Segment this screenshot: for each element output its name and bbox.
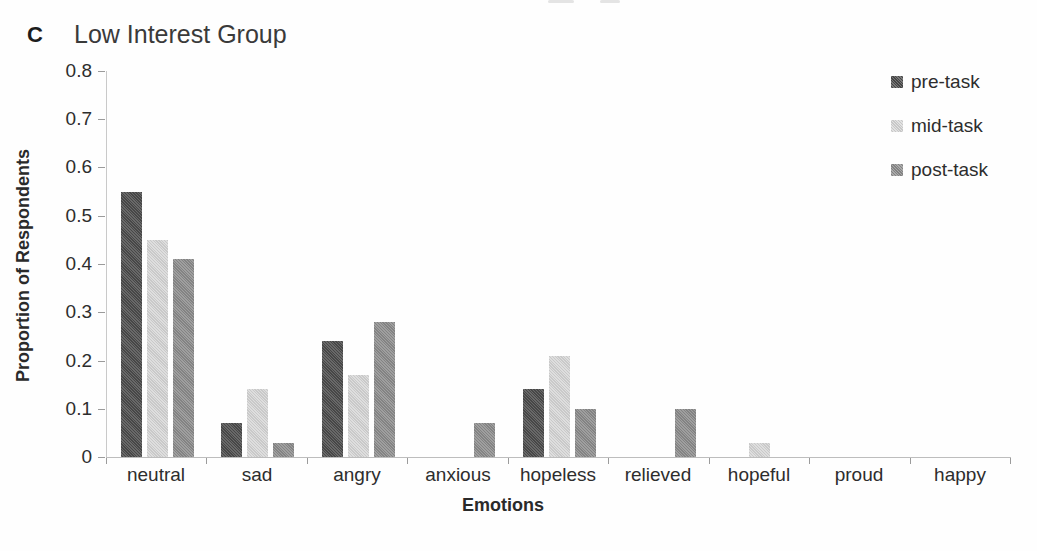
legend-label: mid-task (911, 115, 983, 137)
figure-panel-c: C Low Interest Group Proportion of Respo… (0, 0, 1037, 551)
x-tick-label: anxious (403, 464, 513, 486)
bar-pre-task-angry (322, 341, 343, 457)
scan-artifact (600, 0, 620, 3)
plot-area (106, 71, 1011, 458)
bar-post-task-neutral (173, 259, 194, 457)
x-tick-label: neutral (101, 464, 211, 486)
y-tick-label: 0.1 (32, 399, 92, 419)
scan-artifact (548, 0, 574, 3)
bar-mid-task-sad (247, 389, 268, 457)
bar-pre-task-sad (221, 423, 242, 457)
bar-post-task-anxious (474, 423, 495, 457)
bar-post-task-sad (273, 443, 294, 457)
x-tick-label: proud (804, 464, 914, 486)
legend-item-mid-task: mid-task (891, 114, 988, 138)
x-tick-label: angry (302, 464, 412, 486)
x-tick-label: happy (905, 464, 1015, 486)
x-tick-label: hopeless (503, 464, 613, 486)
bar-post-task-hopeless (575, 409, 596, 457)
y-tick-mark (98, 119, 105, 120)
x-tick-label: hopeful (704, 464, 814, 486)
y-tick-mark (98, 71, 105, 72)
bar-pre-task-hopeless (523, 389, 544, 457)
bar-mid-task-hopeful (749, 443, 770, 457)
legend-label: pre-task (911, 71, 980, 93)
legend-swatch-post-task (891, 164, 903, 176)
y-tick-label: 0.3 (32, 302, 92, 322)
y-axis-title: Proportion of Respondents (13, 146, 34, 386)
bar-mid-task-hopeless (549, 356, 570, 457)
legend-item-post-task: post-task (891, 158, 988, 182)
legend-label: post-task (911, 159, 988, 181)
bar-mid-task-neutral (147, 240, 168, 457)
bar-post-task-relieved (675, 409, 696, 457)
y-tick-label: 0.5 (32, 206, 92, 226)
x-axis-title: Emotions (462, 495, 544, 516)
y-tick-mark (98, 361, 105, 362)
panel-letter: C (27, 22, 43, 48)
chart-title: Low Interest Group (74, 20, 287, 49)
y-tick-mark (98, 264, 105, 265)
x-tick-label: relieved (603, 464, 713, 486)
y-tick-label: 0.7 (32, 109, 92, 129)
y-tick-mark (98, 409, 105, 410)
legend-swatch-mid-task (891, 120, 903, 132)
legend: pre-taskmid-taskpost-task (891, 70, 988, 202)
y-tick-label: 0.4 (32, 254, 92, 274)
bar-mid-task-angry (348, 375, 369, 457)
legend-item-pre-task: pre-task (891, 70, 988, 94)
legend-swatch-pre-task (891, 76, 903, 88)
y-tick-mark (98, 216, 105, 217)
bar-pre-task-neutral (121, 192, 142, 457)
x-tick-label: sad (202, 464, 312, 486)
y-tick-label: 0.8 (32, 61, 92, 81)
bar-post-task-angry (374, 322, 395, 457)
y-tick-label: 0.6 (32, 157, 92, 177)
y-tick-mark (98, 167, 105, 168)
y-tick-mark (98, 312, 105, 313)
y-tick-label: 0.2 (32, 351, 92, 371)
y-tick-mark (98, 457, 105, 458)
y-tick-label: 0 (32, 447, 92, 467)
